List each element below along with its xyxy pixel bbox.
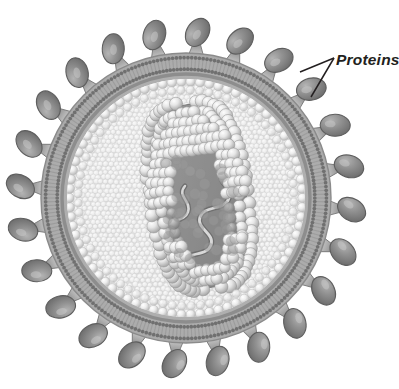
leader-line-1 bbox=[300, 58, 334, 72]
virus-diagram-figure: Proteins bbox=[0, 0, 399, 389]
virion-illustration: Proteins bbox=[0, 0, 399, 389]
proteins-label: Proteins bbox=[336, 51, 399, 68]
proteins-annotation: Proteins bbox=[300, 51, 399, 97]
